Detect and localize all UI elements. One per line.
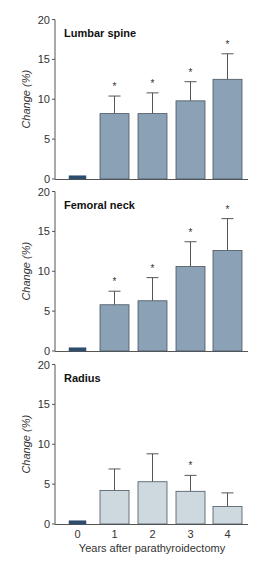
x-tick-label: 4 <box>224 528 230 540</box>
y-tick-label: 5 <box>44 478 50 490</box>
bar-1 <box>100 469 129 524</box>
bar-0 <box>69 176 86 179</box>
y-tick-label: 5 <box>44 305 50 317</box>
significance-asterisk: * <box>113 276 117 287</box>
bar-1: * <box>100 81 129 179</box>
y-tick-label: 15 <box>38 225 50 237</box>
x-axis-label: Years after parathyroidectomy <box>79 542 226 554</box>
x-tick-label: 2 <box>149 528 155 540</box>
y-tick-label: 20 <box>38 359 50 371</box>
y-tick-label: 15 <box>38 53 50 65</box>
y-tick-label: 10 <box>38 265 50 277</box>
bar-0 <box>69 521 86 524</box>
chart-radius: 05101520Change (%)Radius*01234Years afte… <box>0 358 264 562</box>
bar-2: * <box>138 78 167 179</box>
bar-1: * <box>100 276 129 351</box>
bar-3: * <box>176 460 205 524</box>
x-tick-label: 3 <box>187 528 193 540</box>
y-tick-label: 0 <box>44 173 50 185</box>
significance-asterisk: * <box>189 460 193 471</box>
y-tick-label: 15 <box>38 398 50 410</box>
bar-4: * <box>213 39 242 179</box>
chart-femoral-neck: 05101520Change (%)Femoral neck**** <box>0 186 264 358</box>
panel-title: Radius <box>64 372 101 384</box>
chart-lumbar-spine: 05101520Change (%)Lumbar spine**** <box>0 0 264 186</box>
panel-title: Lumbar spine <box>64 27 136 39</box>
y-tick-label: 0 <box>44 518 50 530</box>
bar-2 <box>138 454 167 524</box>
bar-4: * <box>213 204 242 351</box>
y-tick-label: 10 <box>38 438 50 450</box>
panel-title: Femoral neck <box>64 199 136 211</box>
y-axis-label: Change (%) <box>20 242 32 301</box>
significance-asterisk: * <box>151 78 155 89</box>
significance-asterisk: * <box>113 81 117 92</box>
y-tick-label: 20 <box>38 186 50 198</box>
significance-asterisk: * <box>189 227 193 238</box>
y-axis-label: Change (%) <box>20 415 32 474</box>
significance-asterisk: * <box>189 67 193 78</box>
x-tick-label: 1 <box>111 528 117 540</box>
y-axis-label: Change (%) <box>20 70 32 129</box>
bar-3: * <box>176 67 205 179</box>
bar-4 <box>213 493 242 524</box>
x-tick-label: 0 <box>74 528 80 540</box>
bar-0 <box>69 348 86 351</box>
significance-asterisk: * <box>151 263 155 274</box>
y-tick-label: 20 <box>38 14 50 26</box>
y-tick-label: 10 <box>38 93 50 105</box>
significance-asterisk: * <box>226 204 230 215</box>
significance-asterisk: * <box>226 39 230 50</box>
bar-3: * <box>176 227 205 351</box>
y-tick-label: 5 <box>44 133 50 145</box>
y-tick-label: 0 <box>44 345 50 357</box>
bar-2: * <box>138 263 167 351</box>
